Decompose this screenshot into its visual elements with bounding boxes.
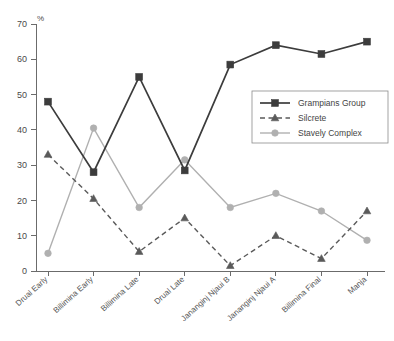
x-axis-category-label: Billimina Final [280, 275, 323, 315]
x-axis-category-label: Billimina Late [99, 274, 141, 313]
y-axis-tick-label: 60 [17, 54, 27, 64]
y-axis-tick-label: 10 [17, 231, 27, 241]
data-point-marker [90, 125, 97, 132]
x-axis-category-label: Drual Early [14, 275, 49, 308]
y-axis: 706050403020100 [17, 19, 36, 276]
legend-label: Grampians Group [298, 98, 366, 108]
data-point-marker [45, 250, 52, 257]
data-point-marker [136, 204, 143, 211]
data-point-marker [318, 208, 325, 215]
data-series-group [44, 38, 371, 268]
data-point-marker [227, 204, 234, 211]
y-axis-tick-label: 0 [22, 266, 27, 276]
x-axis-category-labels: Drual EarlyBillimina EarlyBillimina Late… [14, 274, 369, 323]
data-point-marker [272, 100, 279, 107]
x-axis-category-label: Manja [346, 274, 369, 296]
y-axis-tick-label: 40 [17, 125, 27, 135]
data-point-marker [227, 61, 234, 68]
data-point-marker [136, 74, 143, 81]
data-point-marker [45, 98, 52, 105]
data-point-marker [226, 262, 234, 269]
x-axis-category-label: Jananginj Njaui B [179, 275, 231, 323]
data-point-marker [272, 130, 279, 137]
series-stavely-complex [45, 125, 371, 257]
data-point-marker [181, 157, 188, 164]
chart-canvas: 706050403020100 Drual EarlyBillimina Ear… [0, 0, 394, 341]
data-point-marker [273, 190, 280, 197]
data-point-marker [181, 167, 188, 174]
data-point-marker [90, 169, 97, 176]
data-point-marker [90, 195, 98, 202]
data-point-marker [364, 237, 371, 244]
data-point-marker [318, 51, 325, 58]
legend-label: Stavely Complex [298, 128, 363, 138]
y-axis-tick-label: 50 [17, 90, 27, 100]
y-axis-tick-label: 30 [17, 160, 27, 170]
x-axis-category-label: Drual Late [153, 274, 187, 306]
line-chart: 706050403020100 Drual EarlyBillimina Ear… [0, 0, 394, 341]
x-axis-category-label: Billimina Early [52, 275, 95, 315]
data-point-marker [364, 38, 371, 45]
data-point-marker [272, 42, 279, 49]
chart-legend[interactable]: Grampians GroupSilcreteStavely Complex [252, 91, 388, 143]
legend-item-grampians-group[interactable]: Grampians Group [260, 98, 366, 108]
data-point-marker [363, 207, 371, 214]
data-point-marker [272, 232, 280, 239]
y-axis-unit-label: % [37, 14, 44, 23]
x-axis-category-label: Jananginj Njaui A [225, 274, 277, 322]
series-line [48, 128, 367, 253]
y-axis-tick-label: 70 [17, 19, 27, 29]
legend-label: Silcrete [298, 113, 327, 123]
data-point-marker [44, 151, 52, 158]
y-axis-tick-label: 20 [17, 196, 27, 206]
data-point-marker [181, 214, 189, 221]
